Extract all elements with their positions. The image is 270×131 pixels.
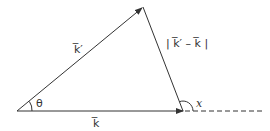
label-k: k̅: [91, 117, 100, 130]
vector-diagram: θ x k̅′ k̅ | k̅′ – k̅ |: [0, 0, 270, 131]
label-k-prime: k̅′: [72, 43, 83, 56]
label-chi: x: [196, 97, 203, 110]
vector-k-prime: [17, 8, 142, 111]
label-k-difference: | k̅′ – k̅ |: [166, 37, 208, 50]
label-theta: θ: [36, 97, 43, 110]
theta-angle-arc: [29, 102, 32, 112]
vector-k-difference: [143, 7, 183, 111]
